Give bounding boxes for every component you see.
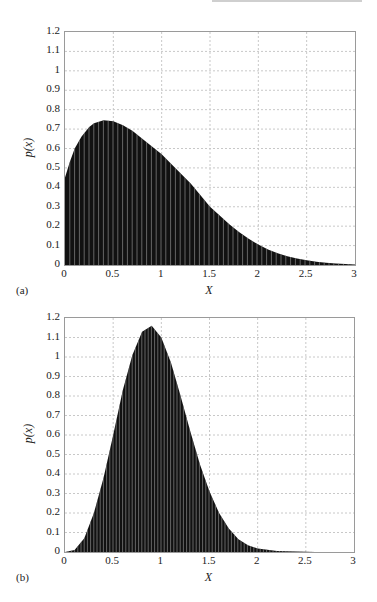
- x-tick-label: 2: [245, 268, 269, 279]
- y-tick-label: 0.4: [34, 467, 60, 478]
- y-axis-label: p(x): [21, 132, 36, 162]
- y-tick-label: 0.7: [34, 122, 60, 133]
- y-tick-label: 0.1: [34, 526, 60, 537]
- chart-panel-b: 00.10.20.30.40.50.60.70.80.911.11.200.51…: [0, 286, 377, 602]
- x-tick-label: 1.5: [197, 268, 221, 279]
- panel-label: (b): [16, 571, 29, 583]
- y-tick-label: 0.8: [34, 389, 60, 400]
- y-axis-label: p(x): [21, 419, 36, 449]
- y-tick-label: 0.2: [34, 219, 60, 230]
- chart-panel-a: 00.10.20.30.40.50.60.70.80.911.11.200.51…: [0, 0, 377, 300]
- y-tick-label: 0.9: [34, 83, 60, 94]
- x-axis-label: X: [199, 570, 219, 585]
- y-tick-label: 0.3: [34, 487, 60, 498]
- x-tick-label: 0.5: [100, 555, 124, 566]
- y-tick-label: 1: [34, 64, 60, 75]
- y-tick-label: 1.2: [34, 311, 60, 322]
- y-tick-label: 0.2: [34, 506, 60, 517]
- x-tick-label: 2: [245, 555, 269, 566]
- y-tick-label: 0.8: [34, 103, 60, 114]
- x-tick-label: 3: [341, 555, 365, 566]
- y-tick-label: 1.2: [34, 25, 60, 36]
- y-tick-label: 1: [34, 350, 60, 361]
- x-tick-label: 0: [52, 268, 76, 279]
- y-tick-label: 0.5: [34, 448, 60, 459]
- x-tick-label: 1: [149, 268, 173, 279]
- x-tick-label: 2.5: [293, 555, 317, 566]
- y-tick-label: 1.1: [34, 331, 60, 342]
- y-tick-label: 0.1: [34, 239, 60, 250]
- x-tick-label: 1: [148, 555, 172, 566]
- y-tick-label: 0.7: [34, 409, 60, 420]
- x-tick-label: 0: [52, 555, 76, 566]
- y-tick-label: 0.3: [34, 200, 60, 211]
- y-tick-label: 0.9: [34, 370, 60, 381]
- x-tick-label: 0.5: [100, 268, 124, 279]
- x-tick-label: 2.5: [294, 268, 318, 279]
- y-tick-label: 0.5: [34, 161, 60, 172]
- y-tick-label: 0.4: [34, 180, 60, 191]
- y-tick-label: 0.6: [34, 428, 60, 439]
- plot-area: [64, 317, 355, 553]
- plot-area: [64, 31, 356, 266]
- x-tick-label: 1.5: [197, 555, 221, 566]
- x-tick-label: 3: [342, 268, 366, 279]
- y-tick-label: 0.6: [34, 142, 60, 153]
- y-tick-label: 1.1: [34, 44, 60, 55]
